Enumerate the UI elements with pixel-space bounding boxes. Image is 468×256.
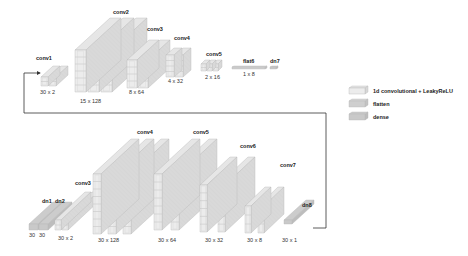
enc-dn7-slab bbox=[270, 66, 278, 69]
enc-conv1-dims: 30 x 2 bbox=[40, 89, 55, 95]
legend-label-dense: dense bbox=[373, 114, 389, 120]
enc-conv1-label: conv1 bbox=[36, 55, 52, 61]
dec-conv7-label: conv7 bbox=[280, 162, 296, 168]
legend: 1d convolutional + LeakyReLU flatten den… bbox=[349, 86, 453, 120]
legend-swatch-flatten-shape bbox=[349, 99, 368, 107]
autoencoder-diagram: conv1 30 x 2 conv2 15 x 128 conv3 8 x 64… bbox=[0, 0, 468, 256]
dec-dn8-label: dn8 bbox=[302, 202, 312, 208]
enc-flat6-label: flat6 bbox=[243, 58, 254, 64]
legend-label-flatten: flatten bbox=[373, 101, 390, 107]
enc-conv3-label: conv3 bbox=[147, 26, 163, 32]
enc-conv5-dims: 2 x 16 bbox=[205, 74, 220, 80]
enc-dn7-label: dn7 bbox=[270, 58, 280, 64]
dec-conv5-dims: 30 x 64 bbox=[158, 237, 176, 243]
enc-conv5-label: conv5 bbox=[206, 51, 222, 57]
layer-blocks bbox=[29, 18, 314, 234]
legend-swatch-dense bbox=[349, 112, 368, 120]
enc-flat6-slab bbox=[232, 66, 267, 69]
dec-conv3-label: conv3 bbox=[75, 180, 91, 186]
enc-conv3-dims: 8 x 64 bbox=[129, 89, 144, 95]
dec-dn1-label: dn1 bbox=[42, 198, 52, 204]
enc-flat6 bbox=[232, 66, 267, 69]
dec-conv4-dims: 30 x 128 bbox=[98, 237, 119, 243]
dec-conv4-label: conv4 bbox=[137, 129, 154, 135]
enc-conv2-dims: 15 x 128 bbox=[80, 98, 101, 104]
dec-conv3-dims: 30 x 2 bbox=[58, 235, 73, 241]
dec-conv7-dims: 30 x 8 bbox=[247, 237, 262, 243]
enc-conv4-dims: 4 x 32 bbox=[168, 78, 183, 84]
dec-conv6-label: conv6 bbox=[240, 143, 256, 149]
dec-conv6-dims: 30 x 32 bbox=[205, 237, 223, 243]
legend-swatch-conv bbox=[349, 86, 368, 94]
dec-dn2-label: dn2 bbox=[55, 198, 65, 204]
dec-dn1-dims: 30 bbox=[29, 232, 35, 238]
legend-swatch-flatten bbox=[349, 99, 368, 107]
enc-conv1 bbox=[41, 66, 68, 86]
enc-conv4 bbox=[166, 48, 191, 77]
enc-flat6-dims: 1 x 8 bbox=[243, 71, 255, 77]
enc-dn7 bbox=[270, 66, 278, 69]
dec-dn2-dims: 30 bbox=[39, 232, 45, 238]
enc-conv2-label: conv2 bbox=[113, 9, 129, 15]
legend-label-conv: 1d convolutional + LeakyReLU bbox=[373, 88, 453, 94]
legend-swatch-dense-shape bbox=[349, 112, 368, 120]
enc-conv5 bbox=[201, 60, 222, 71]
legend-swatch-conv-shape bbox=[349, 86, 368, 94]
enc-conv4-label: conv4 bbox=[174, 35, 191, 41]
dec-conv5-label: conv5 bbox=[193, 129, 209, 135]
dec-dn8-dims: 30 x 1 bbox=[282, 237, 297, 243]
